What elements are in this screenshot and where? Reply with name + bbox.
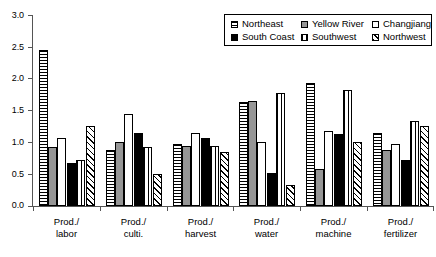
- bar: [267, 173, 276, 206]
- legend-swatch-icon: [372, 34, 379, 41]
- y-tick-label: 0.5: [12, 170, 24, 179]
- y-tick-label: 0.0: [12, 201, 24, 210]
- bar: [57, 138, 66, 206]
- legend-swatch-icon: [231, 34, 238, 41]
- bar: [220, 152, 229, 206]
- legend-swatch-icon: [301, 21, 308, 28]
- legend-item-south-coast[interactable]: South Coast: [231, 32, 294, 42]
- bar: [401, 160, 410, 206]
- x-axis-label-line: Prod./: [100, 216, 167, 228]
- bar: [182, 146, 191, 206]
- y-tick-label: 1.5: [12, 106, 24, 115]
- x-axis-label-line: fertilizer: [367, 228, 434, 240]
- bar: [334, 134, 343, 206]
- legend-item-yellow-river[interactable]: Yellow River: [301, 19, 364, 29]
- y-tick-label: 3.0: [12, 11, 24, 20]
- y-tick-label: 2.0: [12, 74, 24, 83]
- legend-label: Southwest: [312, 32, 356, 42]
- legend-swatch-icon: [301, 34, 308, 41]
- bar: [343, 90, 352, 207]
- x-axis-label-line: Prod./: [167, 216, 234, 228]
- bar: [86, 126, 95, 206]
- x-axis-label: Prod./labor: [33, 216, 100, 240]
- legend-label: Northwest: [383, 32, 426, 42]
- y-tick-label: 1.0: [12, 138, 24, 147]
- legend-swatch-icon: [231, 21, 238, 28]
- bar: [143, 147, 152, 206]
- x-axis-label-line: machine: [300, 228, 367, 240]
- bar: [48, 147, 57, 206]
- bar: [410, 121, 419, 206]
- bar: [124, 114, 133, 206]
- bar: [382, 150, 391, 206]
- x-axis-label-line: Prod./: [233, 216, 300, 228]
- legend-label: Changjiang: [383, 19, 431, 29]
- bar: [173, 144, 182, 206]
- bar: [306, 83, 315, 206]
- bar: [391, 144, 400, 206]
- bar: [76, 160, 85, 206]
- bar: [153, 174, 162, 206]
- x-axis-label-line: harvest: [167, 228, 234, 240]
- bar: [39, 50, 48, 206]
- bar-group: [100, 15, 167, 206]
- legend-swatch-icon: [372, 21, 379, 28]
- bar: [420, 126, 429, 206]
- y-axis: 3.0 2.5 2.0 1.5 1.0 0.5 0.0: [0, 0, 30, 257]
- bar: [324, 131, 333, 206]
- legend-label: Yellow River: [312, 19, 364, 29]
- y-tick-label: 2.5: [12, 43, 24, 52]
- x-axis-label-line: Prod./: [300, 216, 367, 228]
- x-axis-label: Prod./water: [233, 216, 300, 240]
- legend-label: Northeast: [242, 19, 283, 29]
- x-axis-label: Prod./machine: [300, 216, 367, 240]
- bar: [134, 133, 143, 206]
- bar: [106, 150, 115, 206]
- legend-label: South Coast: [242, 32, 294, 42]
- bar: [286, 185, 295, 206]
- bar-group: [33, 15, 100, 206]
- bar: [210, 146, 219, 206]
- x-axis-label-line: labor: [33, 228, 100, 240]
- x-axis-label-line: culti.: [100, 228, 167, 240]
- x-axis-label-line: water: [233, 228, 300, 240]
- x-axis-label-line: Prod./: [367, 216, 434, 228]
- x-axis-label: Prod./fertilizer: [367, 216, 434, 240]
- legend-item-northwest[interactable]: Northwest: [372, 32, 426, 42]
- bar: [115, 142, 124, 206]
- bar: [239, 102, 248, 206]
- bar: [373, 133, 382, 206]
- bar: [353, 142, 362, 206]
- bar: [257, 142, 266, 206]
- x-axis-label: Prod./harvest: [167, 216, 234, 240]
- bar: [201, 138, 210, 206]
- legend-item-southwest[interactable]: Southwest: [301, 32, 356, 42]
- bar-chart: 3.0 2.5 2.0 1.5 1.0 0.5 0.0 Prod./laborP…: [0, 0, 436, 257]
- legend: NortheastYellow RiverChangjiangSouth Coa…: [224, 14, 432, 46]
- bar: [191, 133, 200, 206]
- x-axis-label-line: Prod./: [33, 216, 100, 228]
- bar: [248, 101, 257, 206]
- legend-item-northeast[interactable]: Northeast: [231, 19, 283, 29]
- bar: [315, 169, 324, 206]
- legend-item-changjiang[interactable]: Changjiang: [372, 19, 431, 29]
- bar: [276, 93, 285, 206]
- x-axis-label: Prod./culti.: [100, 216, 167, 240]
- bar: [67, 163, 76, 206]
